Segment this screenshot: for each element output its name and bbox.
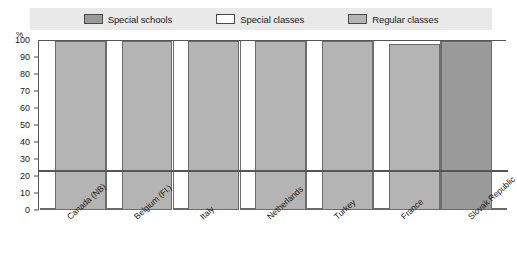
legend-label-special-schools: Special schools (108, 14, 173, 25)
legend-label-special-classes: Special classes (240, 14, 304, 25)
y-tick-mark-80 (34, 74, 38, 75)
y-tick-mark-60 (34, 108, 38, 109)
bar-special-classes (492, 208, 507, 210)
y-tick-mark-30 (34, 159, 38, 160)
y-tick-label-20: 20 (20, 171, 30, 181)
bar-special-classes (307, 208, 322, 210)
bar-special-classes (241, 208, 256, 210)
legend-swatch-regular-classes (348, 14, 367, 24)
bar-special-classes (107, 208, 122, 210)
y-tick-label-70: 70 (20, 86, 30, 96)
legend-item-regular-classes: Regular classes (348, 14, 438, 25)
legend-label-regular-classes: Regular classes (372, 14, 438, 25)
y-tick-label-60: 60 (20, 103, 30, 113)
bar-group-separator (440, 41, 441, 210)
chart-legend: Special schools Special classes Regular … (30, 8, 492, 30)
legend-swatch-special-schools (84, 14, 103, 24)
bar-group-separator (173, 41, 174, 210)
bar-regular-classes (389, 44, 440, 210)
bar-group (306, 41, 373, 210)
y-tick-mark-70 (34, 91, 38, 92)
y-tick-label-100: 100 (15, 35, 30, 45)
chart-plot-area (38, 40, 506, 210)
y-tick-mark-40 (34, 142, 38, 143)
y-tick-mark-50 (34, 125, 38, 126)
bar-special-classes (174, 208, 189, 210)
y-tick-mark-20 (34, 176, 38, 177)
x-axis-tick-labels: Canada (NB)Belgium (Fl.)ItalyNetherlands… (0, 212, 514, 268)
legend-swatch-special-classes (216, 14, 235, 24)
bar-special-classes (40, 208, 55, 210)
bar-regular-classes (322, 41, 373, 210)
bar-group (373, 41, 440, 210)
bar-group-separator (306, 41, 307, 210)
bar-group-separator (373, 41, 374, 210)
bar-special-classes (374, 208, 389, 210)
y-tick-mark-90 (34, 57, 38, 58)
bar-group-separator (106, 41, 107, 210)
bar-group (173, 41, 240, 210)
y-tick-label-80: 80 (20, 69, 30, 79)
y-axis-tick-labels: 1009080706050403020100 (0, 40, 34, 210)
chart-plot-wrapper: 1009080706050403020100 (0, 40, 514, 210)
x-axis-line (38, 170, 508, 172)
y-tick-label-30: 30 (20, 154, 30, 164)
y-tick-label-10: 10 (20, 188, 30, 198)
y-tick-label-90: 90 (20, 52, 30, 62)
legend-item-special-schools: Special schools (84, 14, 173, 25)
bar-regular-classes (188, 41, 239, 210)
y-tick-mark-10 (34, 193, 38, 194)
chart-caption (4, 268, 510, 274)
legend-item-special-classes: Special classes (216, 14, 304, 25)
bar-special-schools (441, 41, 492, 210)
y-tick-mark-0 (34, 210, 38, 211)
y-tick-label-50: 50 (20, 120, 30, 130)
bar-group-separator (240, 41, 241, 210)
y-tick-label-40: 40 (20, 137, 30, 147)
